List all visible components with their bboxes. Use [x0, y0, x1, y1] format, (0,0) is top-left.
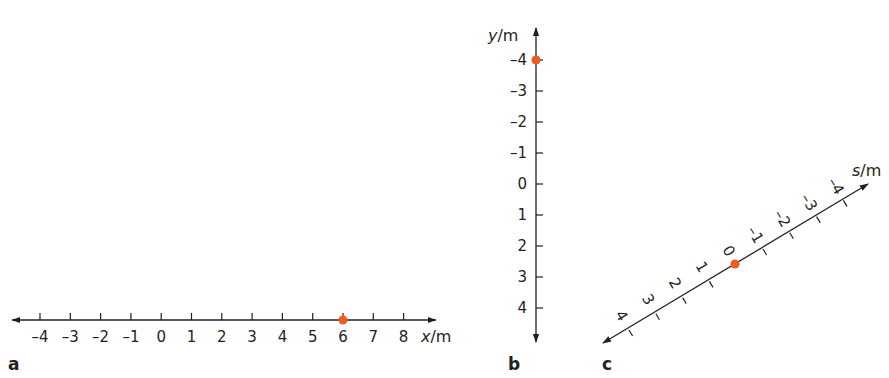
x-tick-label: –3 [62, 328, 79, 346]
s-tick-label: –4 [824, 174, 848, 198]
s-tick [683, 298, 687, 304]
y-tick-label: 2 [517, 237, 527, 255]
s-tick-label: 3 [638, 291, 658, 308]
s-axis-ticks: 43210–1–2–3–4 [611, 174, 848, 336]
panel-a: –4–3–2–1012345678 x/m a [8, 313, 451, 374]
y-tick-label: –3 [510, 82, 527, 100]
s-tick-label: 0 [718, 242, 738, 259]
x-tick-label: 7 [369, 328, 379, 346]
x-axis-ticks: –4–3–2–1012345678 [31, 313, 408, 346]
s-tick-label: –1 [743, 223, 767, 247]
y-tick-label: 1 [517, 206, 527, 224]
panel-c: 43210–1–2–3–4 s/m c [602, 161, 881, 374]
y-tick-label: –1 [510, 144, 527, 162]
panel-label-b: b [508, 354, 520, 374]
x-tick-label: 8 [399, 328, 409, 346]
y-axis-ticks: –4–3–2–101234 [510, 51, 543, 317]
x-tick-label: –4 [31, 328, 48, 346]
x-tick-label: 4 [278, 328, 288, 346]
y-tick-label: 4 [517, 299, 527, 317]
x-tick-label: 3 [247, 328, 257, 346]
s-tick [629, 330, 633, 336]
x-tick-label: 2 [217, 328, 227, 346]
s-tick [763, 249, 767, 255]
x-tick-label: 0 [156, 328, 166, 346]
s-tick-label: 1 [692, 258, 712, 275]
s-tick-label: –2 [770, 207, 794, 231]
y-tick-label: –4 [510, 51, 527, 69]
s-tick-label: –3 [797, 190, 821, 214]
x-position-point [339, 316, 348, 325]
y-position-point [532, 56, 541, 65]
s-axis-unit-label: s/m [852, 161, 881, 180]
x-tick-label: 1 [187, 328, 197, 346]
s-tick [843, 200, 847, 206]
s-tick [817, 217, 821, 223]
s-position-point [731, 260, 740, 269]
s-tick [656, 314, 660, 320]
s-tick [709, 281, 713, 287]
y-axis-unit-label: y/m [487, 26, 518, 45]
y-tick-label: –2 [510, 113, 527, 131]
panel-b: –4–3–2–101234 y/m b [487, 26, 543, 374]
y-tick-label: 0 [517, 175, 527, 193]
number-line-figure: –4–3–2–1012345678 x/m a –4–3–2–101234 y/… [0, 0, 889, 378]
panel-label-c: c [602, 354, 612, 374]
panel-label-a: a [8, 354, 19, 374]
s-tick-label: 2 [665, 275, 685, 292]
s-tick [790, 233, 794, 239]
x-tick-label: 5 [308, 328, 318, 346]
s-tick-label: 4 [611, 307, 631, 324]
x-tick-label: –1 [122, 328, 139, 346]
x-tick-label: 6 [338, 328, 348, 346]
x-axis-unit-label: x/m [420, 327, 451, 346]
x-tick-label: –2 [92, 328, 109, 346]
y-tick-label: 3 [517, 268, 527, 286]
